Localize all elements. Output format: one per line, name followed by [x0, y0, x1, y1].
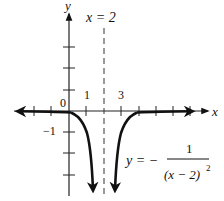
x-tick-label-3: 3: [118, 88, 124, 102]
y-axis-label: y: [63, 0, 71, 13]
svg-text:1: 1: [186, 141, 193, 156]
curve-right-branch: [115, 113, 137, 191]
function-formula: y = − 1 (x − 2) 2: [124, 141, 211, 182]
x-axis-label: x: [211, 104, 218, 119]
graph-canvas: y x x = 2 0 1 3 −1 y = − 1 (x − 2) 2: [0, 0, 224, 201]
curve-left-tail: [18, 111, 71, 112]
x-tick-label-1: 1: [84, 88, 90, 102]
svg-text:y = −: y = −: [124, 153, 158, 168]
svg-text:(x − 2): (x − 2): [164, 167, 200, 182]
svg-text:2: 2: [206, 163, 211, 173]
y-tick-label-neg1: −1: [43, 124, 56, 138]
curve-right-tail: [137, 111, 192, 112]
asymptote-label: x = 2: [85, 10, 116, 25]
curve-left-branch: [71, 113, 93, 191]
x-tick-label-0: 0: [60, 96, 66, 110]
